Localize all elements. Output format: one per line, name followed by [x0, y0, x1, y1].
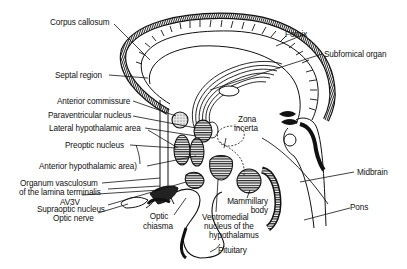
label-optic-nerve: Optic nerve [53, 214, 94, 223]
label-pituitary: Pituitary [218, 246, 247, 255]
label-optic-chiasma-line1: Optic [146, 212, 172, 221]
label-anterior-hypothalamic-area: Anterior hypothalamic area) [39, 162, 137, 171]
label-zona-incerta-line1: Zona [238, 115, 256, 124]
label-mammillary-body-line1: Mammillary [218, 197, 268, 206]
brain-sagittal-diagram: Corpus callosum Fornix Subfornical organ… [0, 0, 407, 269]
subfornical-organ-shape [279, 111, 296, 117]
label-preoptic-nucleus: Preoptic nucleus [65, 141, 124, 150]
anterior-commissure-shape [172, 112, 188, 128]
label-fornix: Fornix [285, 30, 307, 39]
label-midbrain: Midbrain [357, 168, 388, 177]
label-organum-vasculosum-line1: Organum vasculosum [20, 179, 98, 188]
label-pons: Pons [350, 203, 368, 212]
label-optic-chiasma-line2: chiasma [138, 222, 178, 231]
ventromedial-nucleus-shape [210, 156, 233, 181]
label-supraoptic-nucleus: Supraoptic nucleus [37, 205, 105, 214]
label-ventromedial-line2: nucleus of the [204, 222, 254, 231]
thalamic-oval-shape [219, 86, 239, 96]
label-subfornical-organ: Subfornical organ [324, 50, 386, 59]
label-septal-region: Septal region [55, 71, 102, 80]
optic-nerve-shape [121, 197, 148, 208]
preoptic-nucleus-shape [174, 135, 190, 165]
anterior-hypothalamic-shape [190, 138, 204, 166]
mammillary-body-shape [237, 169, 261, 193]
label-ventromedial-line1: Ventromedial [202, 213, 249, 222]
label-lateral-hypothalamic-area: Lateral hypothalamic area [49, 124, 141, 133]
label-ventromedial-line3: hypothalamus [209, 231, 259, 240]
label-corpus-callosum: Corpus callosum [50, 18, 109, 27]
label-organum-vasculosum-line2: of the lamina terminalis [19, 188, 101, 197]
label-paraventricular-nucleus: Paraventricular nucleus [48, 111, 131, 120]
supraoptic-nucleus-shape [185, 172, 204, 188]
label-anterior-commissure: Anterior commissure [57, 97, 130, 106]
label-zona-incerta-line2: incerta [234, 124, 258, 133]
